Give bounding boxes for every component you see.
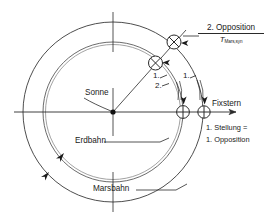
arc-tick-outer-1 (190, 76, 196, 79)
label-stellung-1: 1. Stellung = (206, 124, 247, 131)
sun-marker (110, 109, 115, 114)
earth-body-position-2 (149, 56, 163, 70)
label-opposition-2: 2. Opposition (198, 24, 264, 34)
arc-tick-inner-1 (160, 75, 167, 78)
marsbahn-leader-hook (176, 184, 187, 190)
synodic-period-annotation: 2. Opposition TMars,syn (198, 24, 264, 44)
sonne-leader-line (84, 98, 111, 111)
label-erdbahn: Erdbahn (75, 137, 106, 145)
earth-direction-arrow-2 (163, 60, 171, 66)
erdbahn-leader-hook (160, 138, 169, 142)
orbit-diagram: Sonne Erdbahn Marsbahn Fixstern 1. Stell… (0, 0, 267, 222)
label-period-symbol: TMars,syn (198, 34, 264, 44)
label-opposition-1: 1. Opposition (206, 136, 250, 143)
label-period-subscript: Mars,syn (225, 39, 243, 44)
label-marker-1-inner: 1. (153, 72, 160, 80)
label-marsbahn: Marsbahn (93, 185, 129, 193)
mars-direction-arrow-2 (181, 40, 189, 46)
earth-body-position-1 (177, 106, 190, 119)
label-marker-1-outer: 1. (183, 72, 190, 80)
mars-body-opposition-2 (167, 35, 181, 49)
label-marker-2-inner: 2. (155, 82, 162, 90)
label-sonne: Sonne (85, 89, 109, 97)
mars-body-opposition-1 (198, 106, 210, 118)
label-fixstern: Fixstern (212, 100, 241, 108)
mars-orbit-direction-arrow (41, 172, 49, 181)
arc-tick-inner-2 (162, 84, 169, 87)
